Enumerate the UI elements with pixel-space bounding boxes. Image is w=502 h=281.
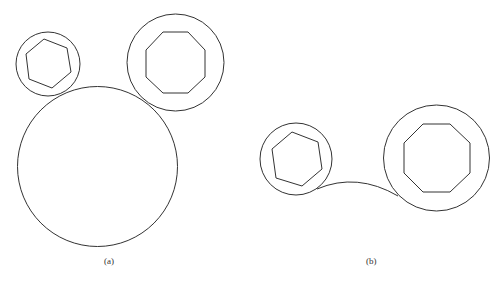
figure-canvas bbox=[0, 0, 502, 281]
octagon bbox=[146, 32, 205, 93]
large-circle bbox=[384, 105, 490, 211]
large-circle bbox=[18, 87, 178, 247]
hexagon bbox=[26, 39, 71, 88]
hexagon bbox=[272, 132, 322, 186]
octagon bbox=[404, 124, 470, 192]
panel-a bbox=[16, 14, 224, 247]
top-right-circle bbox=[127, 14, 224, 111]
panel-a-label: (a) bbox=[104, 256, 114, 266]
panel-b-label: (b) bbox=[366, 256, 377, 266]
panel-b bbox=[260, 105, 490, 211]
connecting-arc bbox=[317, 182, 398, 196]
